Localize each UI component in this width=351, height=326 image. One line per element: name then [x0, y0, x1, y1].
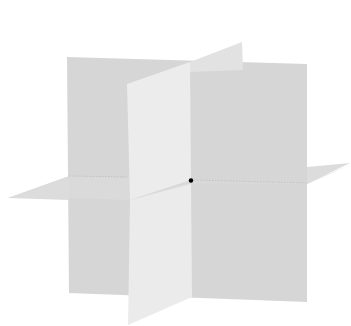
origin-point: [189, 178, 193, 182]
coordinate-planes-diagram: [0, 0, 351, 326]
front-vertical-plane-upper: [127, 62, 191, 200]
horizontal-plane-left-wing: [8, 176, 69, 200]
front-vertical-plane-lower: [128, 183, 192, 325]
front-vertical-plane-back-part: [190, 42, 243, 72]
